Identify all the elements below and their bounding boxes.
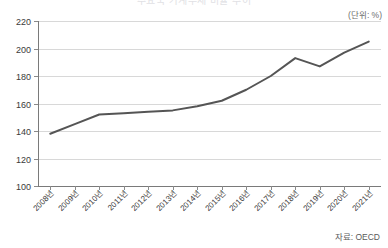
y-tick-label: 100 bbox=[16, 182, 31, 192]
y-tick-label: 200 bbox=[16, 45, 31, 55]
x-tick-label: 2010년 bbox=[80, 188, 105, 213]
x-axis bbox=[38, 186, 381, 190]
data-series bbox=[50, 42, 369, 134]
x-tick-label: 2015년 bbox=[203, 188, 228, 213]
x-tick-label: 2012년 bbox=[129, 188, 154, 213]
y-tick-label: 120 bbox=[16, 155, 31, 165]
y-tick-label: 140 bbox=[16, 127, 31, 137]
plot-area: 100120140160180200220 2008년2009년2010년201… bbox=[0, 0, 388, 248]
x-tick-label: 2019년 bbox=[301, 188, 326, 213]
x-tick-label: 2009년 bbox=[56, 188, 81, 213]
x-tick-label: 2016년 bbox=[227, 188, 252, 213]
chart-page: 주요국 가계부채 비율 추이 (단위: %) 10012014016018020… bbox=[0, 0, 388, 248]
x-tick-label: 2020년 bbox=[325, 188, 350, 213]
x-tick-label: 2017년 bbox=[252, 188, 277, 213]
x-tick-label: 2011년 bbox=[105, 188, 129, 212]
series-line bbox=[50, 42, 369, 134]
y-tick-label: 180 bbox=[16, 72, 31, 82]
x-tick-label: 2014년 bbox=[178, 188, 203, 213]
line-chart: 100120140160180200220 2008년2009년2010년201… bbox=[0, 0, 388, 248]
y-tick-label: 220 bbox=[16, 17, 31, 27]
x-tick-label: 2008년 bbox=[31, 188, 56, 213]
x-tick-label: 2018년 bbox=[276, 188, 301, 213]
source-label: 자료: OECD bbox=[335, 230, 380, 242]
y-tick-label: 160 bbox=[16, 100, 31, 110]
x-tick-label: 2021년 bbox=[350, 188, 375, 213]
x-tick-label: 2013년 bbox=[154, 188, 179, 213]
y-tick-labels: 100120140160180200220 bbox=[16, 17, 31, 192]
x-tick-labels: 2008년2009년2010년2011년2012년2013년2014년2015년… bbox=[31, 188, 375, 213]
y-axis bbox=[34, 21, 39, 187]
